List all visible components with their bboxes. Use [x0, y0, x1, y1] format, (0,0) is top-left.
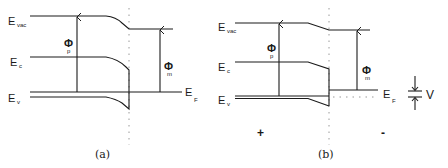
label-ev-sub-b: v: [227, 101, 230, 107]
label-ef-sub-b: F: [392, 98, 396, 104]
label-ev-sub-a: v: [17, 99, 20, 105]
valence-band-b: [235, 99, 329, 107]
label-ev-b: E: [218, 94, 225, 106]
valence-band-a: [30, 92, 129, 109]
label-ev-a: E: [8, 92, 15, 104]
label-ec-sub-b: c: [227, 68, 230, 74]
label-ef-a: E: [185, 86, 192, 98]
label-plus: +: [257, 126, 264, 140]
voltage-indicator: [408, 76, 422, 110]
panel-a: E vac E c E v Φ p Φ m E F (a): [8, 8, 198, 161]
vacuum-level-b: [235, 23, 370, 30]
label-evac-sub-a: vac: [17, 22, 26, 28]
caption-a: (a): [95, 148, 110, 161]
label-ef-sub-a: F: [194, 97, 198, 103]
caption-b: (b): [318, 148, 334, 161]
conduction-band-b: [235, 62, 329, 106]
label-evac-sub-b: vac: [227, 28, 236, 34]
label-voltage: V: [426, 88, 434, 102]
label-phi-m-sub-b: m: [365, 75, 370, 81]
label-evac-a: E: [8, 15, 15, 27]
label-ec-a: E: [10, 56, 17, 68]
vacuum-level-a: [30, 16, 173, 29]
label-ec-b: E: [218, 61, 225, 73]
label-ef-b: E: [383, 88, 390, 100]
band-diagram: E vac E c E v Φ p Φ m E F (a) E vac: [0, 0, 448, 168]
panel-b: E vac E c E v Φ p Φ m E F V + - (b): [218, 8, 434, 161]
label-ec-sub-a: c: [19, 63, 22, 69]
label-evac-b: E: [218, 21, 225, 33]
conduction-band-a: [30, 57, 129, 92]
label-minus: -: [381, 126, 385, 140]
label-phi-m-sub-a: m: [167, 71, 172, 77]
